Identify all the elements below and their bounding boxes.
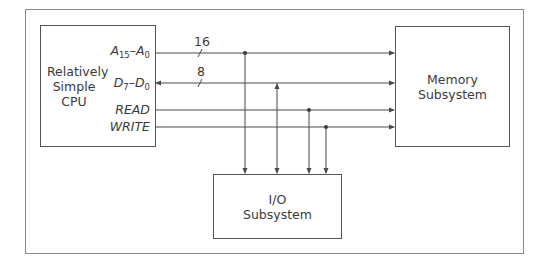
address-bus-width: 16 — [194, 35, 210, 49]
read-signal-label: READ — [80, 103, 150, 117]
address-bus-label: A15–A0 — [80, 44, 150, 58]
io-block-label: I/O Subsystem — [243, 192, 312, 222]
memory-block-label: Memory Subsystem — [418, 72, 487, 102]
data-bus-width: 8 — [197, 65, 205, 79]
io-subsystem-block: I/O Subsystem — [213, 174, 342, 239]
address-junction-dot — [243, 51, 247, 55]
write-signal-label: WRITE — [80, 120, 150, 134]
memory-subsystem-block: Memory Subsystem — [395, 26, 510, 147]
read-junction-dot — [307, 108, 311, 112]
write-junction-dot — [324, 125, 328, 129]
data-bus-label: D7–D0 — [80, 76, 150, 90]
